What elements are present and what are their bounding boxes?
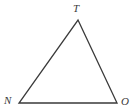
triangle-figure: T N O: [0, 0, 139, 110]
vertex-label-t: T: [73, 3, 79, 14]
vertex-label-o: O: [121, 96, 129, 107]
triangle-shape: [19, 20, 117, 103]
triangle-drawing: [0, 0, 139, 110]
vertex-label-n: N: [4, 95, 11, 106]
